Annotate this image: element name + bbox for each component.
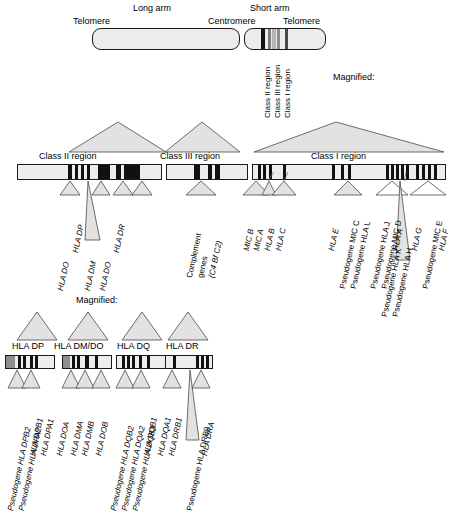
cluster-pointer-triangles [0, 0, 456, 517]
